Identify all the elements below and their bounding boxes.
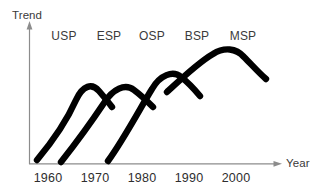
xtick-label-1980: 1980 <box>120 171 164 185</box>
curve-msp <box>167 49 266 92</box>
phase-label-bsp: BSP <box>179 29 215 43</box>
phase-label-osp: OSP <box>134 29 170 43</box>
phase-label-msp: MSP <box>225 29 261 43</box>
xtick-label-1970: 1970 <box>73 171 117 185</box>
x-axis-arrowhead <box>274 161 283 167</box>
x-axis-title: Year <box>286 157 310 169</box>
xtick-label-1990: 1990 <box>167 171 211 185</box>
y-axis-title: Trend <box>12 9 42 21</box>
xtick-label-1960: 1960 <box>26 171 70 185</box>
phase-label-esp: ESP <box>91 29 127 43</box>
trend-chart-figure: Trend Year USP ESP OSP BSP MSP 1960 1970… <box>0 0 317 194</box>
y-axis-arrowhead <box>27 21 33 30</box>
phase-label-usp: USP <box>46 29 82 43</box>
xtick-label-2000: 2000 <box>214 171 258 185</box>
